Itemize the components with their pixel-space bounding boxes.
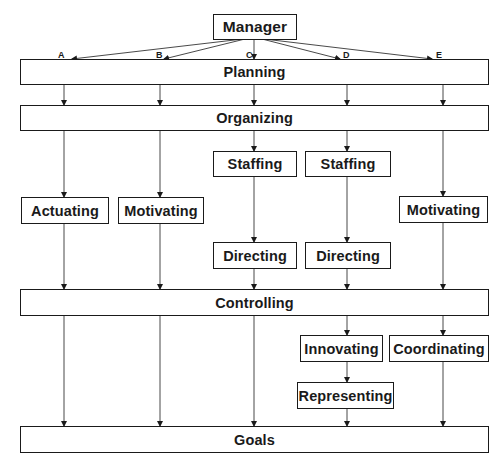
planning-level: Planning — [20, 59, 489, 85]
arrow-manager-to-b — [164, 39, 245, 59]
motivating-node-e: Motivating — [399, 196, 488, 223]
representing-node: Representing — [297, 382, 394, 409]
controlling-level: Controlling — [20, 289, 489, 316]
staffing-node-c: Staffing — [213, 151, 297, 177]
directing-node-c: Directing — [213, 242, 297, 269]
staffing-node-d: Staffing — [305, 151, 391, 177]
directing-node-d: Directing — [305, 242, 391, 269]
goals-level: Goals — [20, 426, 489, 453]
organizing-level: Organizing — [20, 105, 489, 131]
motivating-node-b: Motivating — [118, 197, 204, 224]
actuating-node: Actuating — [21, 197, 109, 224]
innovating-node: Innovating — [300, 335, 383, 362]
manager-node: Manager — [213, 14, 297, 40]
arrow-manager-to-d — [262, 39, 340, 59]
coordinating-node: Coordinating — [389, 335, 489, 362]
